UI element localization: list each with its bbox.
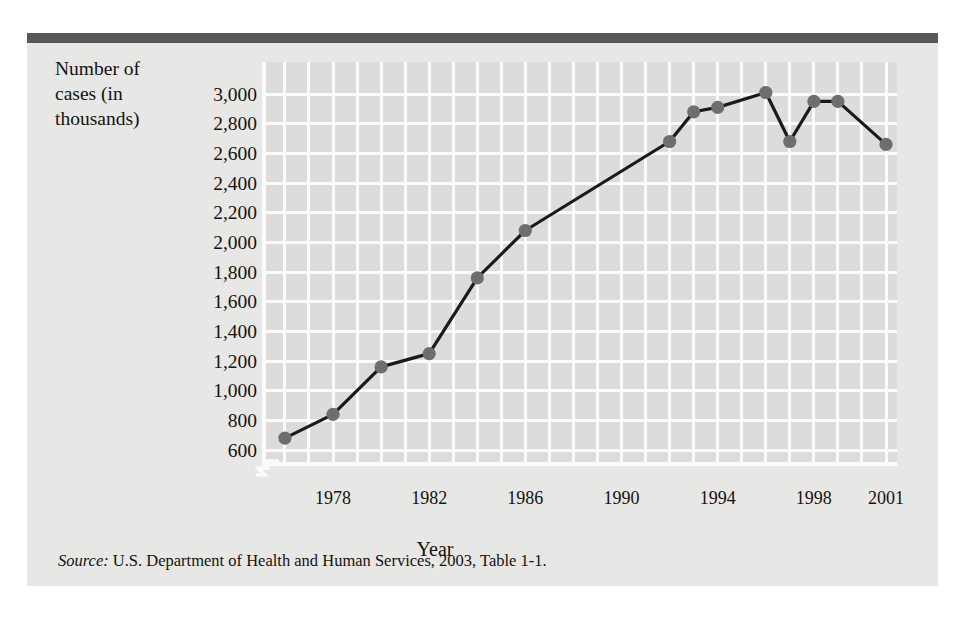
source-citation: U.S. Department of Health and Human Serv…	[109, 551, 547, 570]
x-tick-label: 2001	[868, 489, 904, 507]
source-note: Source: U.S. Department of Health and Hu…	[58, 551, 547, 571]
source-label: Source:	[58, 551, 109, 570]
x-tick-label: 1986	[507, 489, 543, 507]
x-tick-label: 1998	[796, 489, 832, 507]
x-axis-ticks: 1978198219861990199419982001	[27, 33, 938, 586]
x-tick-label: 1990	[604, 489, 640, 507]
x-tick-label: 1978	[315, 489, 351, 507]
figure-panel: Number of cases (in thousands) 3,0002,80…	[27, 33, 938, 586]
x-tick-label: 1994	[700, 489, 736, 507]
x-tick-label: 1982	[411, 489, 447, 507]
